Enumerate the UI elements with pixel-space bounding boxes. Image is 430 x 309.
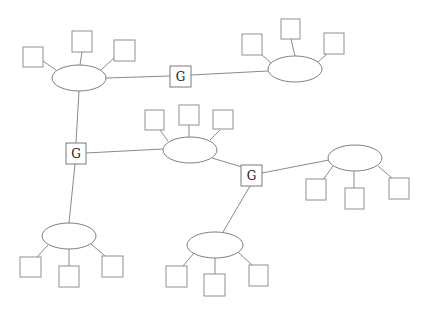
- network-right: [328, 145, 382, 171]
- network-center: [163, 137, 217, 163]
- link-gw-right-to-bottomcenter: [223, 186, 250, 232]
- host-link: [183, 253, 194, 266]
- link-gw-right-to-right: [262, 160, 329, 173]
- link-gw-left-to-center: [86, 149, 163, 153]
- host-box: [389, 178, 409, 199]
- host-link: [37, 245, 48, 257]
- host-box: [213, 110, 233, 129]
- host-link: [318, 54, 327, 62]
- host-link: [101, 57, 115, 70]
- host-link: [91, 244, 105, 256]
- link-center-to-gw-right: [212, 158, 242, 167]
- diagram-canvas: G G G: [0, 0, 430, 309]
- host-box: [114, 40, 135, 61]
- host-link: [291, 39, 295, 56]
- host-link: [43, 61, 56, 70]
- host-box: [345, 188, 364, 209]
- host-link: [238, 252, 252, 265]
- gateway-right: G: [241, 165, 262, 186]
- network-bottom-center: [187, 232, 243, 258]
- host-box: [145, 110, 164, 130]
- link-gw-left-to-bottomleft: [69, 164, 75, 223]
- network-diagram: G G G: [0, 0, 430, 309]
- link-topleft-to-gw-left: [76, 91, 79, 143]
- host-box: [204, 274, 225, 296]
- network-top-right: [268, 56, 322, 82]
- networks: [42, 56, 382, 258]
- host-box: [306, 179, 326, 200]
- host-link: [160, 130, 168, 141]
- gateway-label: G: [247, 169, 257, 183]
- network-top-left: [52, 65, 106, 91]
- host-box: [23, 47, 43, 67]
- host-link: [378, 166, 392, 178]
- host-box: [20, 257, 41, 277]
- gateway-top: G: [170, 66, 191, 87]
- link-gw-top-to-topright: [191, 71, 268, 75]
- host-box: [249, 265, 268, 286]
- host-box: [59, 266, 79, 287]
- host-box: [166, 266, 187, 287]
- host-box: [281, 19, 300, 39]
- host-box: [242, 34, 262, 55]
- host-link: [210, 130, 220, 140]
- gateway-left: G: [66, 143, 86, 164]
- host-box: [72, 31, 92, 52]
- link-topleft-to-gw-top: [106, 76, 170, 78]
- gateway-label: G: [176, 70, 186, 84]
- host-box: [324, 33, 344, 54]
- gateway-label: G: [71, 147, 81, 161]
- host-link: [80, 52, 82, 65]
- host-link: [323, 166, 333, 180]
- host-box: [102, 256, 123, 277]
- network-bottom-left: [42, 223, 96, 249]
- host-box: [179, 105, 199, 125]
